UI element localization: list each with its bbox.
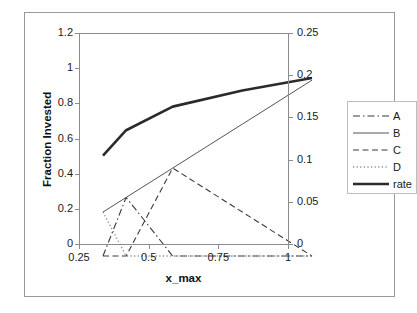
legend-label: D: [393, 161, 401, 173]
y-axis-tick-label: 1: [33, 61, 73, 73]
plot-border-left: [79, 33, 80, 244]
y-axis-tick-label: 0.2: [33, 202, 73, 214]
legend-swatch-a: [352, 110, 390, 122]
series-line-a: [103, 197, 312, 256]
y-axis-tick: [75, 103, 79, 104]
y2-axis-tick-label: 0.05: [297, 195, 337, 207]
legend-swatch-b: [352, 127, 390, 139]
x-axis-tick-label: 0.5: [124, 251, 174, 263]
series-line-b: [103, 80, 312, 212]
legend-label: rate: [393, 178, 412, 190]
y-axis-tick: [75, 68, 79, 69]
legend-swatch-c: [352, 144, 390, 156]
legend-item-c[interactable]: C: [348, 141, 416, 159]
y2-axis-tick: [289, 202, 293, 203]
x-axis-tick: [79, 245, 80, 249]
y2-axis-tick: [289, 160, 293, 161]
y2-axis-tick-label: 0.25: [297, 26, 337, 38]
x-axis-tick-label: 1: [263, 251, 313, 263]
legend-item-rate[interactable]: rate: [348, 175, 416, 193]
legend-swatch-d: [352, 161, 390, 173]
series-line-c: [103, 168, 312, 256]
y2-axis-tick-label: 0: [297, 237, 337, 249]
x-axis-tick-label: 0.25: [54, 251, 104, 263]
y-axis-tick-label: 0.4: [33, 167, 73, 179]
y2-axis-tick-label: 0.2: [297, 68, 337, 80]
y2-axis-tick: [289, 75, 293, 76]
series-line-rate: [103, 78, 312, 156]
legend-label: B: [393, 127, 400, 139]
series-layer: [103, 45, 312, 256]
y2-axis-tick-label: 0.1: [297, 153, 337, 165]
y2-axis-tick: [289, 244, 293, 245]
plot-area: [103, 45, 312, 256]
y-axis-tick-label: 0.6: [33, 132, 73, 144]
legend-item-d[interactable]: D: [348, 158, 416, 176]
y-axis-tick-label: 0.8: [33, 96, 73, 108]
y2-axis-tick-label: 0.15: [297, 110, 337, 122]
y2-axis-tick: [289, 33, 293, 34]
x-axis-tick: [288, 245, 289, 249]
y-axis-tick-label: 1.2: [33, 26, 73, 38]
y-axis-tick: [75, 139, 79, 140]
legend-label: A: [393, 110, 400, 122]
series-line-d: [103, 212, 312, 256]
chart-legend: ABCDrate: [347, 101, 417, 194]
y-axis-tick: [75, 209, 79, 210]
y2-axis-tick: [289, 117, 293, 118]
y-axis-tick: [75, 33, 79, 34]
legend-item-b[interactable]: B: [348, 124, 416, 142]
figure-frame: Fraction Invested x_max 00.20.40.60.811.…: [24, 12, 395, 297]
x-axis-title: x_max: [79, 272, 288, 284]
x-axis-tick-label: 0.75: [193, 251, 243, 263]
plot-border-top: [79, 33, 288, 34]
y-axis-tick: [75, 174, 79, 175]
legend-item-a[interactable]: A: [348, 107, 416, 125]
plot-border-right: [288, 33, 289, 244]
legend-label: C: [393, 144, 401, 156]
x-axis-tick: [149, 245, 150, 249]
plot-border-bottom: [79, 244, 289, 245]
y-axis-tick-label: 0: [33, 237, 73, 249]
x-axis-tick: [218, 245, 219, 249]
legend-swatch-rate: [352, 178, 390, 190]
